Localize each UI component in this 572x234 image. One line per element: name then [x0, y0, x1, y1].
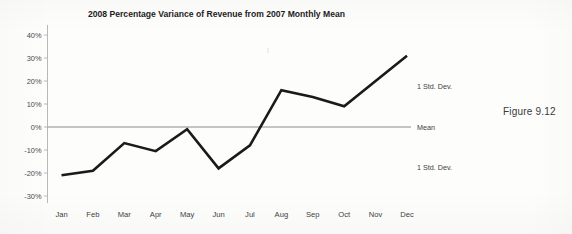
x-axis-ticks: JanFebMarAprMayJunJulAugSepOctNovDec: [55, 210, 414, 219]
x-tick-label-aug: Aug: [275, 210, 289, 219]
chart-annotations: 1 Std. Dev.Mean1 Std. Dev.: [417, 82, 452, 172]
figure-caption: Figure 9.12: [503, 106, 556, 117]
annotation-label-0: 1 Std. Dev.: [417, 82, 452, 91]
x-tick-label-jun: Jun: [212, 210, 224, 219]
chart-canvas: 2008 Percentage Variance of Revenue from…: [0, 0, 572, 234]
scan-page-background: 2008 Percentage Variance of Revenue from…: [0, 0, 572, 234]
y-tick-label: 20%: [27, 77, 42, 86]
x-tick-label-jul: Jul: [245, 210, 255, 219]
y-tick-label: -10%: [24, 146, 42, 155]
y-tick-label: -20%: [24, 169, 42, 178]
x-tick-label-feb: Feb: [86, 210, 99, 219]
y-tick-label: 10%: [27, 100, 42, 109]
y-tick-label: 0%: [31, 123, 42, 132]
annotation-label-2: 1 Std. Dev.: [417, 163, 452, 172]
x-tick-label-nov: Nov: [369, 210, 383, 219]
y-tick-label: 30%: [27, 54, 42, 63]
y-axis-ticks: 40%30%20%10%0%-10%-20%-30%: [24, 31, 47, 201]
y-tick-label: -30%: [24, 192, 42, 201]
x-tick-label-oct: Oct: [338, 210, 351, 219]
annotation-label-1: Mean: [417, 123, 435, 132]
x-tick-label-apr: Apr: [150, 210, 162, 219]
x-tick-label-dec: Dec: [400, 210, 414, 219]
x-tick-label-jan: Jan: [55, 210, 67, 219]
y-tick-label: 40%: [27, 31, 42, 40]
revenue-variance-line[interactable]: [62, 56, 408, 176]
x-tick-label-mar: Mar: [118, 210, 132, 219]
x-tick-label-sep: Sep: [306, 210, 320, 219]
chart-title: 2008 Percentage Variance of Revenue from…: [88, 9, 345, 19]
x-tick-label-may: May: [180, 210, 195, 219]
line-chart-figure: 2008 Percentage Variance of Revenue from…: [0, 0, 572, 234]
